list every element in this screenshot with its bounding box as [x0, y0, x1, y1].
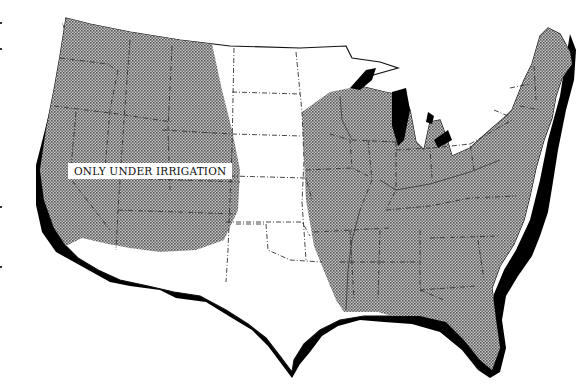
us-map: [0, 0, 586, 392]
scan-mark: [0, 48, 2, 50]
scan-mark: [0, 266, 2, 268]
irrigation-label: ONLY UNDER IRRIGATION: [68, 163, 232, 179]
scan-mark: [0, 22, 2, 24]
scan-mark: [0, 206, 2, 208]
western-region: [40, 18, 240, 252]
